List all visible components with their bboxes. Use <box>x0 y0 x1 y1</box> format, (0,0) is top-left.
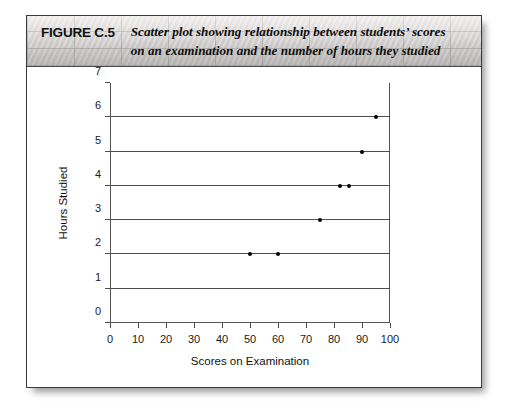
y-tick-label-2: 2 <box>95 236 101 248</box>
data-point <box>248 252 252 256</box>
y-tick-label-3: 3 <box>95 202 101 214</box>
data-point <box>338 184 342 188</box>
x-axis-title: Scores on Examination <box>110 355 390 367</box>
x-tick-mark-0 <box>110 323 111 328</box>
x-tick-mark-60 <box>278 323 279 328</box>
y-tick-mark-6 <box>105 116 110 117</box>
figure-header-band: FIGURE C.5 Scatter plot showing relation… <box>27 16 481 67</box>
x-tick-mark-20 <box>166 323 167 328</box>
x-tick-label-10: 10 <box>132 333 144 345</box>
x-tick-label-70: 70 <box>300 333 312 345</box>
y-tick-mark-1 <box>105 288 110 289</box>
x-tick-mark-100 <box>390 323 391 328</box>
data-point <box>347 184 351 188</box>
figure-caption: Scatter plot showing relationship betwee… <box>115 16 481 60</box>
x-tick-label-100: 100 <box>381 333 399 345</box>
x-tick-label-30: 30 <box>188 333 200 345</box>
x-tick-label-0: 0 <box>107 333 113 345</box>
y-tick-mark-4 <box>105 185 110 186</box>
x-tick-label-20: 20 <box>160 333 172 345</box>
x-tick-label-50: 50 <box>244 333 256 345</box>
x-tick-mark-30 <box>194 323 195 328</box>
gridline-y-3 <box>110 219 390 220</box>
scatter-plot-area: 01234567 0102030405060708090100 <box>110 83 390 323</box>
x-tick-mark-10 <box>138 323 139 328</box>
figure-caption-line-2: on an examination and the number of hour… <box>131 42 469 61</box>
figure-card: FIGURE C.5 Scatter plot showing relation… <box>26 15 482 388</box>
gridline-y-1 <box>110 288 390 289</box>
data-point <box>374 115 378 119</box>
x-tick-label-90: 90 <box>356 333 368 345</box>
x-tick-mark-80 <box>334 323 335 328</box>
gridline-y-6 <box>110 116 390 117</box>
y-tick-mark-5 <box>105 151 110 152</box>
x-tick-label-60: 60 <box>272 333 284 345</box>
x-tick-mark-50 <box>250 323 251 328</box>
x-tick-label-40: 40 <box>216 333 228 345</box>
y-tick-label-4: 4 <box>95 168 101 180</box>
x-tick-mark-40 <box>222 323 223 328</box>
y-tick-mark-2 <box>105 253 110 254</box>
data-point <box>276 252 280 256</box>
y-axis-title: Hours Studied <box>57 167 69 240</box>
figure-caption-line-1: Scatter plot showing relationship betwee… <box>131 23 469 42</box>
y-tick-label-7: 7 <box>95 65 101 77</box>
y-tick-label-1: 1 <box>95 271 101 283</box>
data-point <box>318 218 322 222</box>
x-tick-label-80: 80 <box>328 333 340 345</box>
figure-body: Hours Studied 01234567 01020304050607080… <box>27 67 481 387</box>
y-tick-label-0: 0 <box>95 305 101 317</box>
figure-number-label: FIGURE C.5 <box>27 16 115 40</box>
x-tick-mark-70 <box>306 323 307 328</box>
x-tick-mark-90 <box>362 323 363 328</box>
data-point <box>360 150 364 154</box>
y-tick-mark-7 <box>105 82 110 83</box>
y-tick-label-6: 6 <box>95 99 101 111</box>
y-tick-mark-3 <box>105 219 110 220</box>
y-tick-label-5: 5 <box>95 134 101 146</box>
gridline-y-5 <box>110 151 390 152</box>
